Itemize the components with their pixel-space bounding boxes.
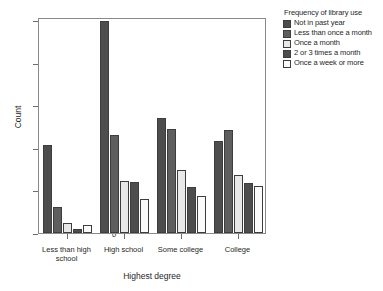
legend-label: Less than once a month bbox=[294, 29, 372, 38]
bar bbox=[53, 207, 62, 233]
x-tick-label: College bbox=[203, 245, 273, 254]
legend-label: Not in past year bbox=[294, 19, 345, 28]
x-tick-mark bbox=[67, 234, 68, 239]
bar bbox=[140, 199, 149, 234]
bar bbox=[214, 141, 223, 233]
y-axis-title: Count bbox=[13, 77, 23, 157]
legend-swatch-icon bbox=[283, 50, 291, 58]
legend-item: Once a week or more bbox=[283, 59, 383, 68]
chart-figure: Count 0100200300400500 Less than high sc… bbox=[0, 0, 383, 291]
bar bbox=[63, 223, 72, 233]
bar bbox=[130, 182, 139, 233]
legend-swatch-icon bbox=[283, 60, 291, 68]
bar bbox=[43, 145, 52, 233]
legend-label: Once a month bbox=[294, 39, 340, 48]
bar bbox=[73, 229, 82, 233]
legend-item: Less than once a month bbox=[283, 29, 383, 38]
legend-item: 2 or 3 times a month bbox=[283, 49, 383, 58]
legend-item: Not in past year bbox=[283, 19, 383, 28]
y-tick-mark bbox=[33, 234, 38, 235]
bar bbox=[157, 118, 166, 233]
bar bbox=[83, 225, 92, 233]
x-tick-mark bbox=[238, 234, 239, 239]
bar bbox=[197, 196, 206, 233]
legend: Frequency of library use Not in past yea… bbox=[283, 8, 383, 69]
bar bbox=[100, 21, 109, 233]
legend-label: Once a week or more bbox=[294, 59, 364, 68]
plot-panel bbox=[38, 18, 266, 234]
bar bbox=[177, 170, 186, 233]
legend-swatch-icon bbox=[283, 20, 291, 28]
bar bbox=[120, 181, 129, 233]
x-axis-title: Highest degree bbox=[38, 271, 266, 281]
legend-swatch-icon bbox=[283, 40, 291, 48]
bar bbox=[187, 187, 196, 233]
bar bbox=[224, 130, 233, 233]
x-tick-mark bbox=[181, 234, 182, 239]
bar bbox=[234, 175, 243, 233]
bar bbox=[110, 135, 119, 233]
legend-title: Frequency of library use bbox=[284, 8, 383, 17]
legend-items: Not in past yearLess than once a monthOn… bbox=[283, 19, 383, 68]
legend-swatch-icon bbox=[283, 30, 291, 38]
x-tick-mark bbox=[124, 234, 125, 239]
legend-label: 2 or 3 times a month bbox=[294, 49, 360, 58]
bar bbox=[167, 129, 176, 233]
bars-container bbox=[39, 19, 265, 233]
legend-item: Once a month bbox=[283, 39, 383, 48]
bar bbox=[244, 183, 253, 233]
bar bbox=[254, 186, 263, 233]
